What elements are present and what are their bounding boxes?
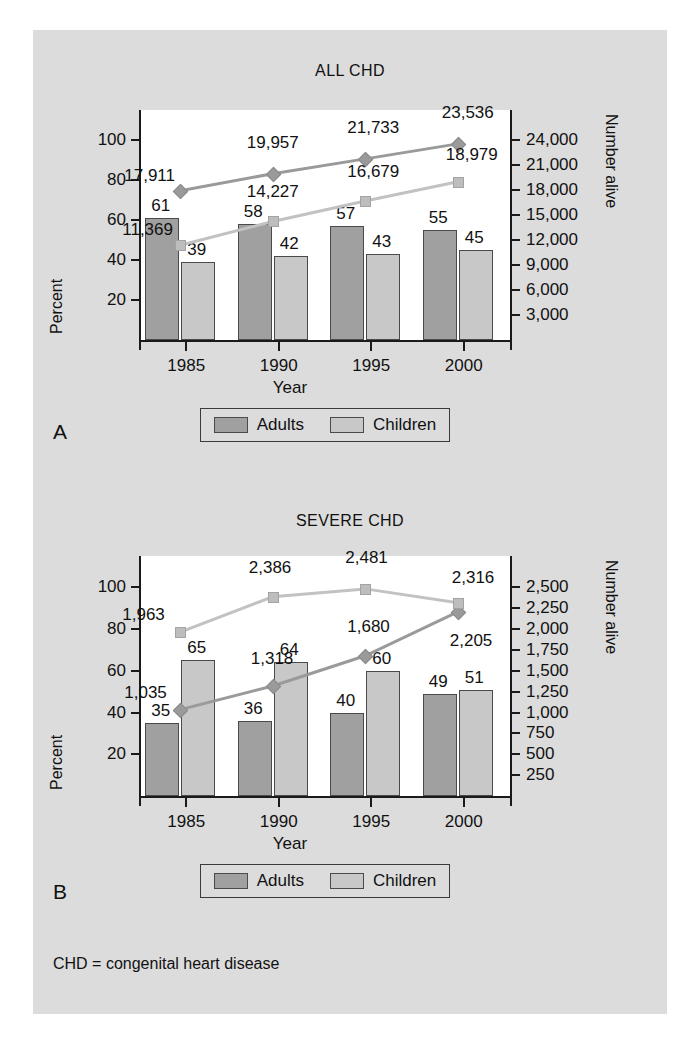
point-label-adults-alive: 1,680 [347, 618, 390, 635]
figure-footnote: CHD = congenital heart disease [53, 955, 279, 973]
marker-children-alive [175, 240, 186, 251]
marker-children-alive [268, 592, 279, 603]
line-children-alive [180, 589, 458, 632]
point-label-children-alive: 1,963 [122, 606, 165, 623]
legend-item-children: Children [330, 415, 436, 435]
point-label-adults-alive: 17,911 [124, 167, 175, 184]
point-label-children-alive: 2,386 [249, 559, 292, 576]
chart-a-x-axis-title: Year [0, 378, 607, 398]
legend-item-children: Children [330, 871, 436, 891]
point-label-children-alive: 2,316 [452, 569, 495, 586]
chart-b-x-axis-title: Year [0, 834, 607, 854]
marker-children-alive [360, 196, 371, 207]
chart-b-legend: Adults Children [200, 864, 450, 898]
panel-a-letter: A [53, 420, 67, 444]
point-label-children-alive: 2,481 [345, 549, 388, 566]
panel-b-letter: B [53, 880, 67, 904]
legend-item-adults: Adults [214, 415, 304, 435]
point-label-adults-alive: 21,733 [347, 119, 399, 136]
line-children-alive [180, 182, 458, 245]
chart-a-legend: Adults Children [200, 408, 450, 442]
point-label-children-alive: 11,369 [122, 221, 173, 238]
point-label-adults-alive: 2,205 [450, 632, 493, 649]
legend-swatch-children [330, 873, 364, 889]
point-label-children-alive: 14,227 [247, 183, 299, 200]
legend-swatch-adults [214, 417, 248, 433]
marker-children-alive [175, 627, 186, 638]
legend-label-children: Children [373, 871, 436, 891]
marker-children-alive [453, 177, 464, 188]
point-label-children-alive: 18,979 [446, 146, 498, 163]
point-label-adults-alive: 19,957 [247, 134, 299, 151]
line-adults-alive [180, 612, 458, 710]
legend-swatch-children [330, 417, 364, 433]
point-label-adults-alive: 23,536 [442, 104, 494, 121]
marker-children-alive [268, 216, 279, 227]
legend-swatch-adults [214, 873, 248, 889]
legend-label-adults: Adults [257, 871, 304, 891]
legend-label-adults: Adults [257, 415, 304, 435]
point-label-adults-alive: 1,318 [251, 650, 294, 667]
point-label-adults-alive: 1,035 [124, 684, 167, 701]
marker-children-alive [360, 584, 371, 595]
legend-label-children: Children [373, 415, 436, 435]
line-adults-alive [180, 144, 458, 191]
point-label-children-alive: 16,679 [347, 163, 399, 180]
marker-children-alive [453, 598, 464, 609]
legend-item-adults: Adults [214, 871, 304, 891]
figure-panel: ALL CHD 20406080100Percent3,0006,0009,00… [33, 30, 667, 1014]
